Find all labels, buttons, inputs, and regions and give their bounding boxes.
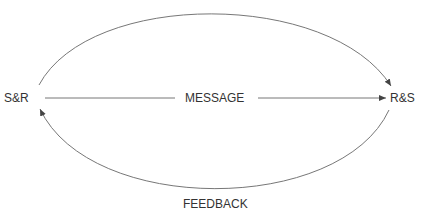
top-arc-arrow <box>39 14 391 86</box>
message-label: MESSAGE <box>185 91 244 105</box>
bottom-arc-arrow <box>40 109 389 189</box>
feedback-label: FEEDBACK <box>183 197 248 211</box>
communication-diagram <box>0 0 427 218</box>
node-receiver-sender: R&S <box>390 91 415 105</box>
node-sender-receiver: S&R <box>4 91 29 105</box>
